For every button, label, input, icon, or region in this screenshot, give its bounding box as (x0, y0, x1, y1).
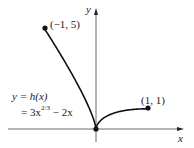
equation-prefix: = 3x (21, 106, 41, 118)
point-right-marker (145, 105, 150, 110)
point-origin-marker (93, 126, 98, 131)
x-axis-label: x (178, 133, 183, 144)
equation-exponent: 2/3 (41, 104, 50, 112)
equation-suffix: − 2x (50, 106, 73, 118)
x-axis-arrow-icon (177, 127, 184, 131)
function-plot (0, 0, 194, 148)
equation-line-1: y = h(x) (12, 91, 48, 102)
point-left-marker (42, 25, 47, 30)
equation-line-2: = 3x2/3 − 2x (21, 107, 73, 118)
equation-lhs: y = h(x) (12, 90, 48, 102)
y-axis-label: y (86, 4, 91, 15)
point-right-label: (1, 1) (141, 95, 165, 106)
point-left-label: (−1, 5) (50, 19, 80, 30)
y-axis-arrow-icon (94, 8, 98, 15)
